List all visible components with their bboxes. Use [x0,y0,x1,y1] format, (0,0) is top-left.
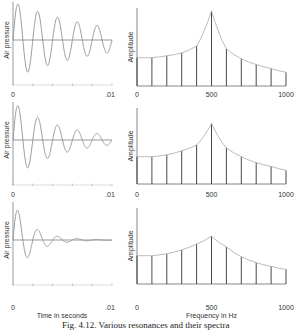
waveform-line [13,4,112,72]
x-tick-label: 0 [11,91,15,98]
y-axis-label: Amplitude [127,230,135,261]
x-tick-label: 0 [11,304,15,311]
spectrum-chart-3 [137,208,286,284]
figure-caption: Fig. 4.12. Various resonances and their … [62,320,230,330]
x-tick-label: 500 [206,304,218,311]
x-tick-label: 1000 [278,91,294,98]
waveform-chart-3 [13,202,112,286]
spectrum-chart-1 [137,8,286,86]
x-tick-label: .01 [105,304,115,311]
waveform-line [13,106,112,168]
x-axis-label: Time in seconds [37,312,88,319]
y-axis-label: Amplitude [127,31,135,62]
x-tick-label: 0 [135,91,139,98]
spectrum-chart-2 [137,108,286,184]
y-axis-label: Amplitude [127,130,135,161]
x-tick-label: .01 [105,191,115,198]
y-axis-label: Air pressure [3,21,11,59]
x-tick-label: 500 [206,91,218,98]
figure: Air pressure0.01Amplitude05001000Air pre… [0,0,300,330]
y-axis-label: Air pressure [3,121,11,159]
waveform-chart-2 [13,102,112,186]
x-tick-label: 0 [135,191,139,198]
waveform-chart-1 [13,2,112,86]
x-tick-label: 500 [206,191,218,198]
x-tick-label: 0 [11,191,15,198]
x-tick-label: .01 [105,91,115,98]
waveform-line [13,210,112,257]
x-axis-label: Frequency in Hz [186,312,237,320]
x-tick-label: 1000 [278,304,294,311]
y-axis-label: Air pressure [3,221,11,259]
x-tick-label: 0 [135,304,139,311]
x-tick-label: 1000 [278,191,294,198]
